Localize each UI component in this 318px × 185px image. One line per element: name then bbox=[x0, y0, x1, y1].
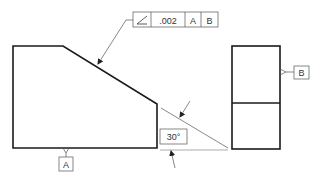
front-view-outline bbox=[13, 46, 157, 148]
dimension-arrow-upper bbox=[180, 101, 190, 117]
fcf-datum-secondary: B bbox=[206, 16, 212, 26]
datum-b-feature: B bbox=[280, 66, 309, 79]
fcf-tolerance: .002 bbox=[159, 16, 177, 26]
datum-a-feature: A bbox=[59, 148, 73, 171]
datum-a-label: A bbox=[63, 160, 69, 170]
dimension-arrow-lower bbox=[171, 151, 175, 168]
fcf-datum-primary: A bbox=[190, 16, 196, 26]
feature-control-frame: .002 A B bbox=[133, 12, 218, 27]
side-view-outline bbox=[232, 46, 280, 149]
datum-b-label: B bbox=[298, 68, 304, 78]
angle-dimension-text: 30° bbox=[167, 132, 181, 142]
fcf-leader bbox=[98, 20, 133, 64]
datum-b-triangle bbox=[280, 69, 286, 75]
angularity-drawing: .002 A B 30° A B bbox=[0, 0, 318, 185]
